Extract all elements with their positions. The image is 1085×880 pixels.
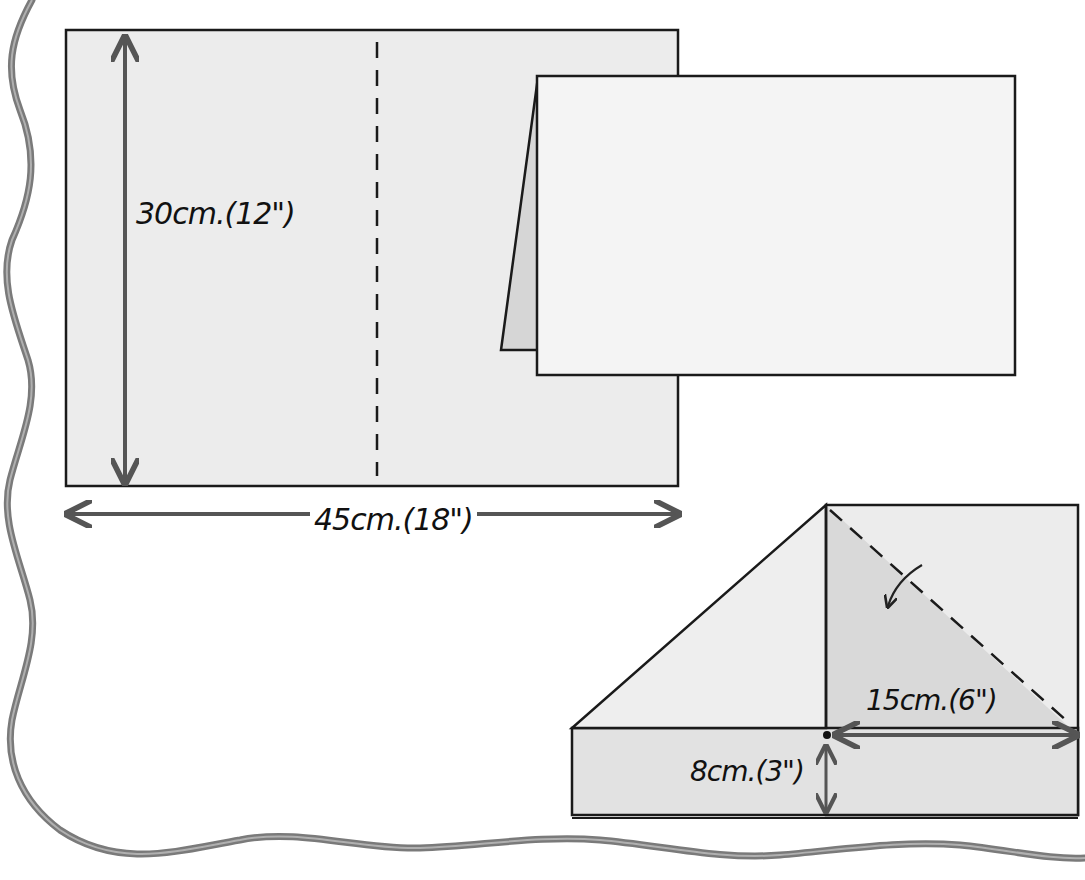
folded-sheet xyxy=(501,76,1015,375)
height-dimension-label: 30cm.(12") xyxy=(136,196,295,231)
vertical-dimension-label: 8cm.(3") xyxy=(690,755,804,788)
width-dimension-label: 45cm.(18") xyxy=(310,502,477,537)
corner-fold-step xyxy=(572,505,1078,818)
folding-diagram xyxy=(0,0,1085,880)
horizontal-dimension-label: 15cm.(6") xyxy=(866,684,997,717)
corner-dot xyxy=(823,731,831,739)
